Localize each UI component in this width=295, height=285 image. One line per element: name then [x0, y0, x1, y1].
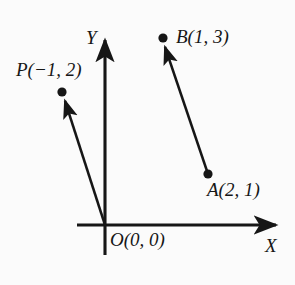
point-label-p: P(−1, 2) — [16, 60, 82, 79]
vector-diagram-figure: Y X O(0, 0) P(−1, 2) B(1, 3) A(2, 1) — [0, 0, 295, 285]
point-label-a: A(2, 1) — [207, 180, 260, 199]
point-dot-p — [57, 87, 66, 96]
point-label-o: O(0, 0) — [110, 230, 165, 249]
y-axis-label: Y — [86, 28, 97, 47]
point-dot-a — [203, 169, 212, 178]
x-axis-label: X — [265, 236, 277, 255]
vector-op-arrow — [65, 101, 105, 225]
point-dot-b — [158, 33, 167, 42]
point-label-b: B(1, 3) — [176, 27, 229, 46]
vector-ab-arrow — [165, 47, 208, 174]
